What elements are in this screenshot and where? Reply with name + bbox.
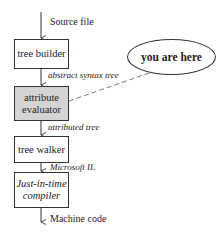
- stage-attribute-evaluator: attribute evaluator: [14, 86, 69, 121]
- output-label: Machine code: [50, 213, 106, 224]
- stage-jit-compiler: Just-in-time compiler: [14, 172, 69, 208]
- edge-label-abstract-syntax-tree: abstract syntax tree: [48, 70, 119, 80]
- stage-tree-builder: tree builder: [14, 39, 69, 69]
- stage-label-line1: Just-in-time: [16, 178, 66, 190]
- stage-tree-walker: tree walker: [14, 136, 69, 163]
- callout-text: you are here: [141, 51, 202, 63]
- stage-label: tree builder: [17, 48, 65, 60]
- stage-label-line1: attribute: [24, 92, 59, 104]
- stage-label-line2: evaluator: [22, 104, 61, 116]
- stage-label-line2: compiler: [23, 190, 60, 202]
- stage-label: tree walker: [18, 144, 65, 156]
- edge-label-microsoft-il: Microsoft IL: [50, 162, 95, 172]
- you-are-here-callout: you are here: [127, 39, 216, 75]
- input-label: Source file: [50, 16, 94, 27]
- edge-label-attributed-tree: attributed tree: [48, 122, 99, 132]
